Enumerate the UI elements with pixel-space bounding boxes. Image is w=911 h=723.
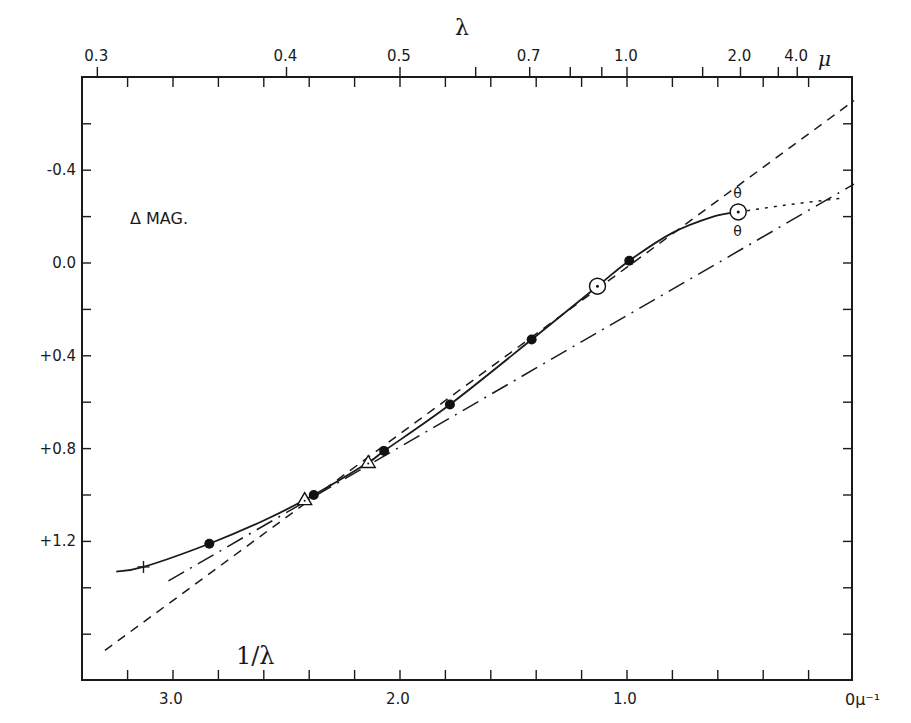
filled-circle-marker (204, 539, 214, 549)
filled-circle-marker (379, 446, 389, 456)
x2-tick-label: 0.5 (387, 47, 411, 65)
y-tick-label: -0.4 (47, 161, 76, 179)
plot-border (82, 77, 852, 680)
bottom-axis-unit: 0μ⁻¹ (845, 690, 880, 709)
chart-canvas: 3.02.01.0 0.30.40.50.71.02.04.0 -0.40.0+… (0, 0, 911, 723)
x-axis-top: 0.30.40.50.71.02.04.0 (84, 47, 808, 87)
circle-dot-center (737, 210, 740, 213)
triangle-center-dot (367, 463, 369, 465)
x2-tick-label: 4.0 (784, 47, 808, 65)
x2-tick-label: 0.7 (517, 47, 541, 65)
x-tick-label: 3.0 (159, 690, 183, 708)
series-line-dashed (105, 101, 854, 651)
series-line-solid (116, 212, 738, 572)
series-line-dash-dot (168, 184, 854, 581)
filled-circle-marker (527, 335, 537, 345)
plot-frame (82, 77, 852, 680)
x-tick-label: 1.0 (613, 690, 637, 708)
filled-circle-marker (445, 400, 455, 410)
y-tick-label: +0.4 (40, 347, 76, 365)
y-tick-label: 0.0 (52, 254, 76, 272)
x2-tick-label: 0.3 (84, 47, 108, 65)
small-theta-marker: θ (733, 185, 742, 201)
x-tick-label: 2.0 (386, 690, 410, 708)
x2-tick-label: 2.0 (728, 47, 752, 65)
y-axis-left: -0.40.0+0.4+0.8+1.2 (40, 124, 852, 634)
filled-circle-marker (309, 490, 319, 500)
x2-tick-label: 1.0 (614, 47, 638, 65)
series-lines (105, 101, 854, 651)
filled-circle-marker (624, 256, 634, 266)
x-axis-bottom: 3.02.01.0 (128, 670, 809, 708)
circle-dot-center (596, 285, 599, 288)
small-theta-marker: θ (733, 223, 742, 239)
triangle-center-dot (304, 500, 306, 502)
y-tick-label: +1.2 (40, 532, 76, 550)
top-axis-title: λ (455, 15, 469, 40)
y-axis-annotation: Δ MAG. (130, 209, 188, 228)
x2-tick-label: 0.4 (274, 47, 298, 65)
bottom-axis-title: 1/λ (236, 642, 275, 670)
y-tick-label: +0.8 (40, 440, 76, 458)
top-axis-unit: μ (818, 47, 831, 71)
